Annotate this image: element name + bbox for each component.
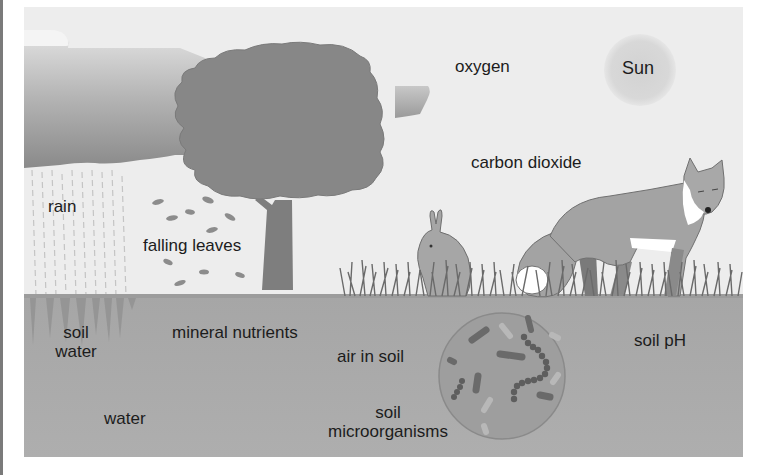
label-soil-water-line2: water (46, 342, 106, 361)
label-mineral-nutrients: mineral nutrients (172, 323, 298, 342)
rain-cloud-icon (24, 30, 68, 48)
label-falling-leaves: falling leaves (143, 236, 241, 255)
label-oxygen: oxygen (455, 57, 510, 76)
label-rain: rain (48, 197, 76, 216)
ecosystem-diagram: oxygen Sun carbon dioxide rain falling l… (0, 0, 760, 475)
label-soil-microorganisms: soil microorganisms (318, 403, 458, 441)
label-soil-water: soil water (46, 323, 106, 361)
label-sun: Sun (622, 59, 654, 78)
label-carbon-dioxide: carbon dioxide (471, 153, 582, 172)
label-soil-ph: soil pH (634, 331, 686, 350)
label-water: water (104, 409, 146, 428)
tree-icon (175, 42, 384, 199)
label-soil-microorganisms-line2: microorganisms (318, 422, 458, 441)
label-air-in-soil: air in soil (337, 347, 404, 366)
label-soil-microorganisms-line1: soil (318, 403, 458, 422)
label-soil-water-line1: soil (46, 323, 106, 342)
